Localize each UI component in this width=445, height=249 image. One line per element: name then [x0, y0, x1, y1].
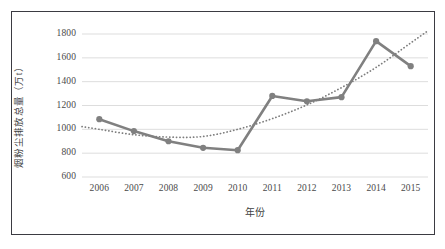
y-tick-label: 1200	[40, 100, 76, 110]
data-point-marker	[373, 38, 379, 44]
y-axis-title: 烟粉尘排放总量（万t）	[11, 50, 25, 180]
data-point-marker	[131, 128, 137, 134]
data-point-marker	[269, 93, 275, 99]
gridlines-group	[82, 34, 428, 177]
data-point-marker	[96, 116, 102, 122]
chart-figure: 60080010001200140016001800 2006200720082…	[0, 0, 445, 249]
data-point-marker	[235, 147, 241, 153]
y-tick-label: 800	[40, 147, 76, 157]
y-tick-label: 600	[40, 171, 76, 181]
y-tick-label: 1800	[40, 28, 76, 38]
y-tick-label: 1400	[40, 76, 76, 86]
y-tick-label: 1000	[40, 123, 76, 133]
data-point-marker	[338, 94, 344, 100]
data-point-marker	[200, 145, 206, 151]
y-tick-label: 1600	[40, 52, 76, 62]
data-point-marker	[408, 63, 414, 69]
x-axis-title: 年份	[82, 204, 428, 219]
x-tick-label: 2015	[390, 183, 432, 193]
data-point-marker	[304, 98, 310, 104]
data-point-marker	[165, 138, 171, 144]
